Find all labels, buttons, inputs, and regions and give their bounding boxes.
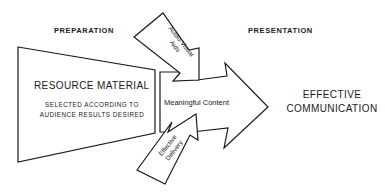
preparation-header: PREPARATION [54, 26, 114, 35]
resource-material-title: RESOURCE MATERIAL [34, 80, 150, 91]
outcome-line-1: EFFECTIVE [282, 88, 382, 102]
outcome-line-2: COMMUNICATION [282, 102, 382, 116]
subtitle-line-1: SELECTED ACCORDING TO [32, 100, 152, 110]
effective-communication-label: EFFECTIVE COMMUNICATION [282, 88, 382, 116]
meaningful-content-label: Meaningful Content [164, 98, 229, 107]
resource-material-subtitle: SELECTED ACCORDING TO AUDIENCE RESULTS D… [32, 100, 152, 120]
subtitle-line-2: AUDIENCE RESULTS DESIRED [32, 110, 152, 120]
presentation-header: PRESENTATION [248, 26, 313, 35]
